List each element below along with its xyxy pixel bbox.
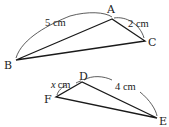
vertex-label-f: F [44,93,52,106]
measure-de: 4 cm [115,81,136,92]
vertex-label-c: C [148,36,156,49]
vertex-label-e: E [159,115,167,127]
measure-df: xcm [50,79,71,90]
unit-df: cm [58,79,71,90]
measure-ac: 2 cm [128,18,149,29]
vertex-label-b: B [4,59,12,72]
triangle-abc-outline [16,19,145,60]
vertex-label-a: A [106,3,116,16]
similar-triangles-diagram: A B C 5 cm 2 cm D F E xcm 4 cm [0,0,169,127]
triangle-def: D F E xcm 4 cm [44,70,167,127]
vertex-label-d: D [79,70,88,83]
arc-de-measure-end [140,92,157,116]
variable-x: x [50,79,56,90]
arc-de-measure-start [84,77,112,80]
measure-ab: 5 cm [45,17,66,28]
triangle-abc: A B C 5 cm 2 cm [4,3,156,72]
triangle-def-outline [56,82,157,118]
